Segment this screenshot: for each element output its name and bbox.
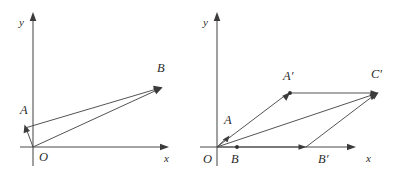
left-vector-OA-arrowhead (24, 125, 30, 134)
left-vector-OB (33, 88, 163, 148)
right-label-B: B (231, 152, 239, 166)
right-label-A: A (223, 113, 232, 127)
right-side-B-prime-C-prime-line (306, 96, 373, 147)
left-label-B: B (157, 61, 165, 75)
right-label-origin: O (203, 152, 212, 166)
right-label-axis-x: x (365, 152, 371, 164)
left-vector-OA-line (27, 130, 34, 148)
right-point-dot-A-prime (288, 91, 292, 95)
left-vector-AB (25, 86, 163, 128)
left-label-A: A (19, 103, 28, 117)
vector-diagram-svg: A B O x y (0, 0, 413, 177)
right-y-axis (214, 12, 221, 166)
left-label-axis-x: x (163, 152, 169, 164)
right-label-axis-y: y (202, 16, 208, 28)
panel-left: A B O x y (18, 12, 169, 166)
right-point-dot-B (235, 145, 239, 149)
left-x-axis-arrowhead (160, 144, 169, 150)
left-vector-AB-line (25, 90, 155, 129)
right-x-axis-arrowhead (347, 144, 356, 150)
right-vector-OC-prime (217, 93, 379, 148)
right-vector-OC-prime-line (217, 95, 372, 147)
right-vector-OB-prime-arrowhead (299, 144, 307, 150)
left-y-axis (30, 12, 37, 166)
left-label-origin: O (39, 150, 48, 164)
right-label-A-prime: A′ (282, 69, 294, 83)
right-label-C-prime: C′ (371, 67, 382, 81)
right-y-axis-arrowhead (214, 12, 221, 21)
left-label-axis-y: y (18, 16, 24, 28)
right-side-B-prime-C-prime (306, 93, 379, 148)
right-side-A-prime-C-prime (290, 90, 379, 96)
right-vector-OB-prime (217, 144, 307, 150)
figure-canvas: A B O x y (0, 0, 413, 177)
panel-right: A B A′ B′ C′ O x y (200, 12, 382, 166)
left-vector-OB-line (33, 91, 156, 148)
left-y-axis-arrowhead (30, 12, 37, 21)
right-label-B-prime: B′ (318, 152, 329, 166)
